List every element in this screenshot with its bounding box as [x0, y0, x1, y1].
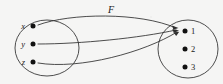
- node-label-x: x: [20, 21, 25, 31]
- node-label-1: 1: [191, 26, 195, 36]
- node-dot-y: [31, 42, 36, 47]
- node-label-y: y: [20, 39, 25, 49]
- node-label-z: z: [21, 57, 26, 67]
- node-dot-3: [183, 65, 188, 70]
- node-dot-1: [183, 29, 188, 34]
- node-dot-x: [31, 24, 36, 29]
- map-label-F: F: [107, 4, 115, 15]
- diagram-canvas: xyz 123 F: [0, 0, 223, 84]
- node-dot-2: [183, 47, 188, 52]
- node-label-3: 3: [191, 62, 195, 72]
- function-diagram-figure: xyz 123 F: [0, 0, 223, 84]
- node-dot-z: [31, 60, 36, 65]
- node-label-2: 2: [191, 44, 195, 54]
